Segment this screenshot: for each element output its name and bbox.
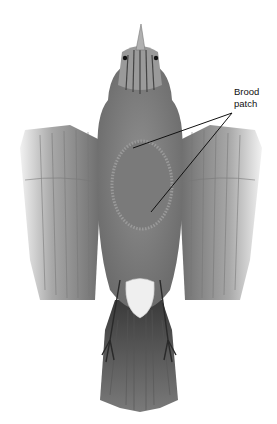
bird-illustration: Brood patch (0, 0, 277, 424)
label-line-2: patch (234, 98, 259, 110)
right-wing (180, 125, 262, 300)
brood-patch (112, 141, 172, 229)
left-eye (123, 56, 127, 60)
label-line-1: Brood (234, 86, 259, 98)
beak (136, 24, 145, 50)
left-wing (20, 125, 100, 300)
brood-patch-label: Brood patch (234, 86, 259, 110)
bird-drawing (0, 0, 277, 424)
right-eye (154, 56, 158, 60)
head (118, 46, 162, 94)
